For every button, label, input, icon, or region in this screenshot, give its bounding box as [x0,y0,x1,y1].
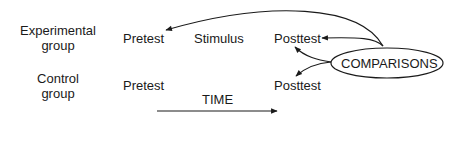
control-group-label: Control group [28,71,88,101]
experimental-design-diagram: Experimental group Pretest Stimulus Post… [0,0,462,146]
control-pretest: Pretest [123,78,164,93]
comparisons-label: COMPARISONS [341,56,433,71]
control-group-line1: Control [28,71,88,86]
control-group-line2: group [28,86,88,101]
experimental-group-label: Experimental group [20,23,96,53]
experimental-pretest: Pretest [123,31,164,46]
control-posttest: Posttest [274,78,321,93]
experimental-group-line2: group [20,38,96,53]
arrow-to-control-posttest [296,62,331,76]
arrow-to-experimental-posttest [322,38,383,46]
time-label: TIME [202,92,233,107]
experimental-posttest: Posttest [274,31,321,46]
experimental-group-line1: Experimental [20,23,96,38]
arrow-from-comparisons-upper [295,47,331,62]
experimental-stimulus: Stimulus [194,31,244,46]
